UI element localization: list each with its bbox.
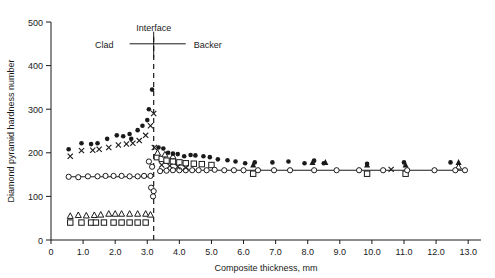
marker-open-triangle xyxy=(67,213,73,219)
marker-open-square xyxy=(143,220,148,225)
marker-filled-circle xyxy=(145,118,150,123)
marker-open-circle xyxy=(190,168,195,173)
marker-filled-circle xyxy=(216,157,221,162)
marker-filled-triangle xyxy=(456,159,462,165)
marker-filled-circle xyxy=(402,160,407,165)
marker-open-circle xyxy=(95,174,100,179)
marker-filled-circle xyxy=(105,137,110,142)
y-axis-title: Diamond pyramid hardness number xyxy=(6,59,16,202)
marker-filled-circle xyxy=(448,160,453,165)
marker-open-circle xyxy=(204,168,209,173)
marker-cross xyxy=(90,148,95,153)
marker-open-circle xyxy=(149,164,154,169)
marker-cross xyxy=(97,147,102,152)
marker-filled-circle xyxy=(233,159,238,164)
marker-open-circle xyxy=(103,173,108,178)
marker-filled-circle xyxy=(243,161,248,166)
marker-filled-circle xyxy=(193,153,198,158)
y-tick-label: 400 xyxy=(28,61,43,71)
marker-filled-circle xyxy=(175,152,180,157)
marker-open-square xyxy=(68,220,73,225)
x-tick-label: 5.0 xyxy=(205,247,218,257)
backer-label: Backer xyxy=(194,40,222,50)
y-axis-title-group: Diamond pyramid hardness number xyxy=(6,59,16,202)
marker-open-square xyxy=(199,161,204,166)
marker-open-circle xyxy=(255,168,260,173)
y-tick-label: 300 xyxy=(28,105,43,115)
x-tick-label: 7.0 xyxy=(269,247,282,257)
marker-filled-circle xyxy=(140,123,145,128)
marker-cross xyxy=(143,133,148,138)
marker-cross xyxy=(167,163,172,168)
marker-filled-circle xyxy=(166,151,171,156)
marker-open-triangle xyxy=(112,211,118,217)
x-tick-label: 10.0 xyxy=(363,247,381,257)
x-tick-label: 1.0 xyxy=(77,247,90,257)
series-cross-mark xyxy=(68,111,394,172)
marker-open-square xyxy=(170,159,175,164)
marker-open-square xyxy=(177,160,182,165)
x-tick-label: 4.0 xyxy=(173,247,186,257)
marker-filled-circle xyxy=(286,159,291,164)
marker-cross xyxy=(68,154,73,159)
series-open-circle xyxy=(66,159,468,199)
clad-label: Clad xyxy=(95,40,114,50)
marker-open-square xyxy=(364,171,369,176)
x-tick-label: 3.0 xyxy=(141,247,154,257)
marker-open-triangle xyxy=(98,212,104,218)
marker-open-circle xyxy=(334,168,339,173)
series-open-triangle xyxy=(67,150,461,219)
series-filled-circle xyxy=(66,87,452,166)
x-tick-label: 2.0 xyxy=(109,247,122,257)
marker-open-circle xyxy=(312,168,317,173)
x-tick-label: 8.0 xyxy=(301,247,314,257)
marker-open-triangle xyxy=(127,211,133,217)
marker-filled-circle xyxy=(270,160,275,165)
marker-filled-circle xyxy=(129,137,134,142)
marker-open-square xyxy=(209,162,214,167)
x-tick-label: 0 xyxy=(48,247,53,257)
marker-cross xyxy=(137,138,142,143)
marker-filled-circle xyxy=(208,155,213,160)
marker-open-square xyxy=(93,220,98,225)
marker-open-square xyxy=(111,220,116,225)
x-tick-label: 6.0 xyxy=(237,247,250,257)
marker-filled-circle xyxy=(201,154,206,159)
marker-open-circle xyxy=(287,168,292,173)
marker-open-circle xyxy=(196,168,201,173)
series-filled-triangle xyxy=(250,159,461,168)
marker-filled-circle xyxy=(365,161,370,166)
marker-open-square xyxy=(135,220,140,225)
marker-open-circle xyxy=(212,167,217,172)
marker-open-circle xyxy=(381,168,386,173)
hardness-profile-chart: 01.02.03.04.05.06.07.08.09.010.011.012.0… xyxy=(0,0,495,278)
marker-filled-circle xyxy=(321,161,326,166)
marker-cross xyxy=(106,145,111,150)
marker-filled-circle xyxy=(161,146,166,151)
y-tick-label: 0 xyxy=(38,236,43,246)
marker-cross xyxy=(148,123,153,128)
chart-root: 01.02.03.04.05.06.07.08.09.010.011.012.0… xyxy=(0,0,495,278)
marker-filled-circle xyxy=(171,151,176,156)
marker-open-triangle xyxy=(143,211,149,217)
series-open-square xyxy=(68,154,409,225)
marker-cross xyxy=(79,148,84,153)
marker-filled-circle xyxy=(188,153,193,158)
marker-open-triangle xyxy=(83,212,89,218)
marker-open-circle xyxy=(231,168,236,173)
marker-open-circle xyxy=(432,168,437,173)
marker-open-circle xyxy=(127,174,132,179)
marker-open-circle xyxy=(85,174,90,179)
marker-open-circle xyxy=(111,173,116,178)
marker-filled-circle xyxy=(66,147,71,152)
marker-filled-circle xyxy=(156,145,161,150)
marker-filled-circle xyxy=(150,87,155,92)
y-tick-label: 200 xyxy=(28,148,43,158)
marker-open-triangle xyxy=(119,211,125,217)
marker-cross xyxy=(116,142,121,147)
marker-cross xyxy=(130,141,135,146)
marker-filled-circle xyxy=(312,158,317,163)
marker-filled-circle xyxy=(127,132,132,137)
marker-open-circle xyxy=(146,159,151,164)
marker-open-triangle xyxy=(147,212,153,218)
